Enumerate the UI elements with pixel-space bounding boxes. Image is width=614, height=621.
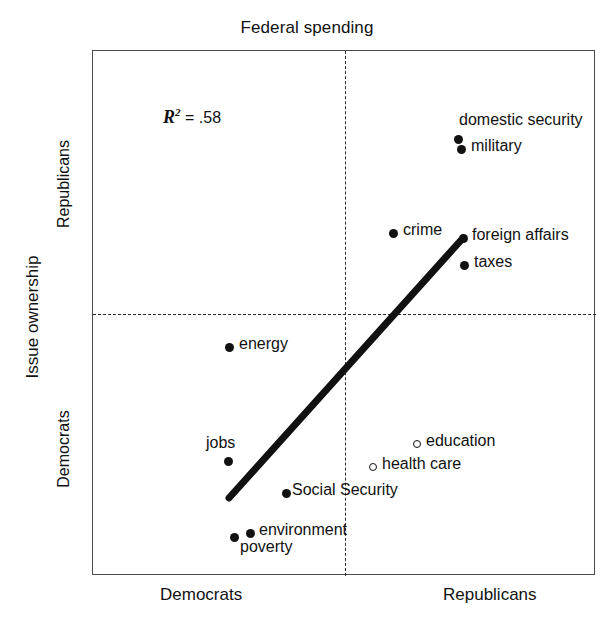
y-axis-title: Issue ownership	[23, 117, 43, 517]
data-label-jobs: jobs	[206, 434, 235, 452]
r-squared-exponent: 2	[175, 106, 181, 118]
horizontal-reference-line	[93, 314, 596, 315]
data-label-taxes: taxes	[474, 253, 512, 271]
plot-area: R2 = .58 domestic security military crim…	[92, 50, 595, 575]
data-point-military[interactable]	[457, 145, 466, 154]
data-label-foreign-affairs: foreign affairs	[472, 226, 569, 244]
data-point-environment[interactable]	[246, 529, 255, 538]
data-label-energy: energy	[239, 335, 288, 353]
data-label-environment: environment	[259, 521, 347, 539]
data-point-energy[interactable]	[225, 343, 234, 352]
data-point-jobs[interactable]	[224, 457, 233, 466]
cut-off-caption	[0, 610, 614, 621]
data-label-military: military	[471, 137, 522, 155]
data-label-health-care: health care	[382, 455, 461, 473]
data-point-health-care[interactable]	[369, 463, 377, 471]
data-label-poverty: poverty	[240, 538, 292, 556]
scatter-plot-figure: Federal spending Issue ownership Republi…	[0, 0, 614, 621]
r-squared-symbol: R	[163, 107, 175, 127]
y-tick-democrats: Democrats	[55, 339, 73, 559]
r-squared-annotation: R2 = .58	[163, 106, 221, 128]
y-tick-republicans: Republicans	[55, 74, 73, 294]
data-point-education[interactable]	[413, 440, 421, 448]
data-label-social-security: Social Security	[292, 481, 398, 499]
r-squared-value: = .58	[185, 109, 221, 126]
x-tick-republicans: Republicans	[443, 585, 537, 605]
chart-title: Federal spending	[0, 18, 614, 38]
data-point-domestic-security[interactable]	[454, 135, 463, 144]
data-point-crime[interactable]	[389, 229, 398, 238]
data-point-poverty[interactable]	[230, 533, 239, 542]
data-point-social-security[interactable]	[282, 489, 291, 498]
x-tick-democrats: Democrats	[160, 585, 242, 605]
data-label-domestic-security: domestic security	[459, 111, 583, 129]
data-point-taxes[interactable]	[460, 261, 469, 270]
data-point-foreign-affairs[interactable]	[459, 234, 468, 243]
data-label-crime: crime	[403, 221, 442, 239]
data-label-education: education	[426, 432, 495, 450]
